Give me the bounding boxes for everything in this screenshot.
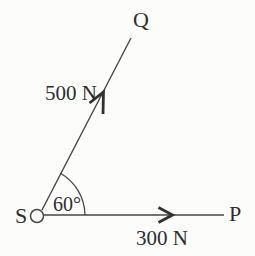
vertex-s-circle: [31, 210, 44, 223]
force-label-sp: 300 N: [136, 226, 188, 250]
point-label-s: S: [15, 203, 27, 228]
angle-label: 60°: [53, 193, 81, 215]
point-label-q: Q: [133, 7, 149, 32]
ray-sq-line: [42, 38, 131, 210]
force-diagram: Q S P 500 N 300 N 60°: [0, 0, 255, 256]
point-label-p: P: [229, 201, 241, 226]
force-diagram-svg: Q S P 500 N 300 N 60°: [0, 0, 255, 256]
force-label-sq: 500 N: [45, 81, 97, 105]
